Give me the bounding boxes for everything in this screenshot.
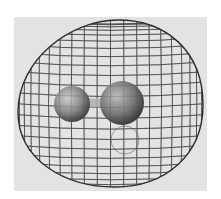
inner-lobe-outline [111,126,139,154]
isosurface-figure [0,0,221,199]
